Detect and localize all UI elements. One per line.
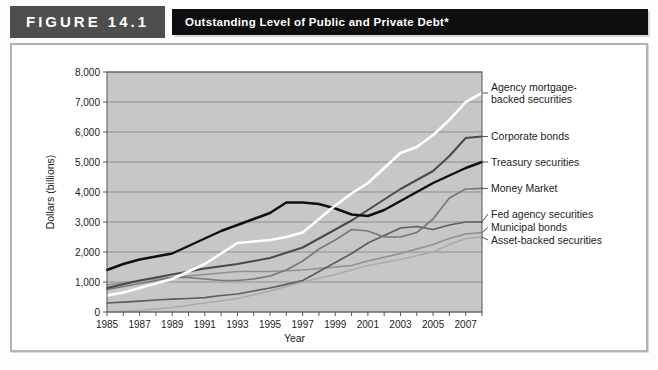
x-tick-label: 1995 (259, 319, 282, 330)
x-tick-label: 2001 (357, 319, 380, 330)
legend-label-corporate-bonds: Corporate bonds (491, 130, 569, 142)
figure-title-bar: Outstanding Level of Public and Private … (172, 9, 648, 35)
y-axis-title: Dollars (billions) (44, 155, 56, 230)
x-tick-label: 1987 (128, 319, 151, 330)
y-tick-label: 8,000 (75, 67, 100, 78)
legend-label-text: Asset-backed securities (491, 234, 602, 246)
legend-label-text: Municipal bonds (491, 221, 567, 233)
x-tick-label: 1999 (324, 319, 347, 330)
legend-label-text: Money Market (491, 182, 558, 194)
legend-leader-municipal-bonds (482, 228, 488, 233)
y-tick-label: 6,000 (75, 127, 100, 138)
legend-label-money-market: Money Market (491, 182, 558, 194)
x-tick-label: 1993 (226, 319, 249, 330)
x-tick-label: 1989 (161, 319, 184, 330)
figure-number-label: FIGURE 14.1 (10, 6, 165, 38)
legend-leader-fed-agency-securities (482, 214, 488, 222)
legend-label-asset-backed-securities: Asset-backed securities (491, 234, 602, 246)
y-tick-label: 3,000 (75, 217, 100, 228)
legend-label-municipal-bonds: Municipal bonds (491, 221, 567, 233)
y-tick-label: 5,000 (75, 157, 100, 168)
legend-label-text: Treasury securities (491, 156, 579, 168)
y-tick-label: 4,000 (75, 187, 100, 198)
legend-label-text: Corporate bonds (491, 130, 569, 142)
x-tick-label: 1991 (194, 319, 217, 330)
legend-label-text: Agency mortgage- (491, 81, 577, 93)
debt-line-chart: 01,0002,0003,0004,0005,0006,0007,0008,00… (12, 45, 646, 350)
chart-card: 01,0002,0003,0004,0005,0006,0007,0008,00… (10, 43, 648, 352)
x-tick-label: 2005 (422, 319, 445, 330)
legend-label-text: Fed agency securities (491, 208, 593, 220)
x-axis-title: Year (284, 332, 306, 344)
legend-label-treasury-securities: Treasury securities (491, 156, 579, 168)
legend-label-fed-agency-securities: Fed agency securities (491, 208, 593, 220)
legend-label-agency-mortgage-backed-securities: Agency mortgage-backed securities (491, 81, 577, 105)
legend-label-text: backed securities (491, 93, 572, 105)
x-tick-label: 2003 (389, 319, 412, 330)
x-tick-label: 1997 (292, 319, 315, 330)
figure-header: FIGURE 14.1 Outstanding Level of Public … (10, 6, 648, 38)
y-tick-label: 1,000 (75, 277, 100, 288)
x-tick-label: 2007 (455, 319, 478, 330)
figure-title: Outstanding Level of Public and Private … (185, 16, 449, 28)
y-tick-label: 2,000 (75, 247, 100, 258)
x-tick-label: 1985 (96, 319, 119, 330)
y-tick-label: 7,000 (75, 97, 100, 108)
legend-leader-asset-backed-securities (482, 237, 488, 240)
y-tick-label: 0 (94, 307, 100, 318)
